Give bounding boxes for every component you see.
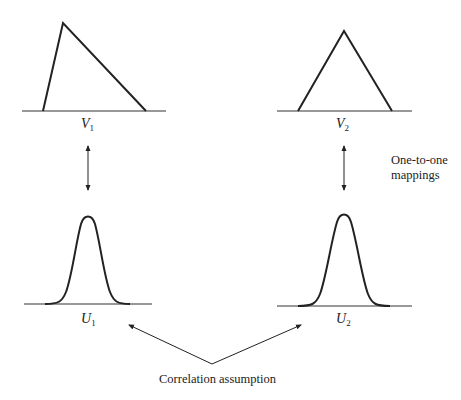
u2-bell-curve (298, 215, 390, 307)
mapping-note-line1: One-to-one (391, 153, 448, 168)
correlation-arrow-u1 (129, 325, 212, 364)
u1-label: U1 (81, 311, 96, 328)
u2-label: U2 (336, 311, 351, 328)
v1-label: V1 (81, 116, 94, 133)
u2-label-subscript: 2 (346, 318, 351, 328)
mapping-note-line2: mappings (391, 168, 448, 183)
v2-label-subscript: 2 (345, 123, 350, 133)
v2-triangle (298, 31, 392, 111)
correlation-arrow-u2 (212, 325, 301, 364)
u1-label-main: U (81, 311, 91, 326)
correlation-assumption-label: Correlation assumption (159, 372, 276, 387)
v1-triangle (43, 23, 146, 111)
mapping-note: One-to-one mappings (391, 153, 448, 183)
u1-distribution (24, 217, 152, 305)
diagram-canvas (0, 0, 461, 400)
v1-distribution (22, 23, 166, 111)
u2-distribution (277, 215, 412, 307)
u1-label-subscript: 1 (91, 318, 96, 328)
v2-distribution (277, 31, 412, 111)
v1-label-subscript: 1 (90, 123, 95, 133)
u2-label-main: U (336, 311, 346, 326)
v1-label-main: V (81, 116, 90, 131)
u1-bell-curve (45, 217, 130, 305)
v2-label-main: V (336, 116, 345, 131)
v2-label: V2 (336, 116, 349, 133)
